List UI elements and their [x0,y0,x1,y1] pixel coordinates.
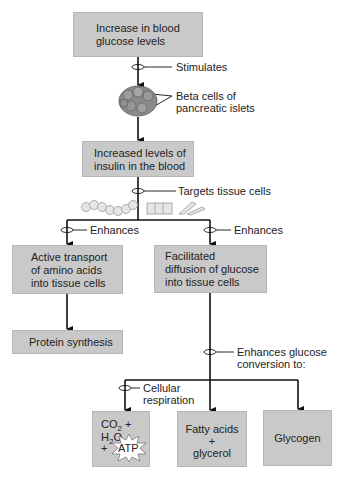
box-amino-transport: Active transport of amino acids into tis… [12,245,123,294]
label-beta-cells: pancreatic islets [176,102,255,114]
label-beta-cells: Beta cells of [176,90,236,102]
label-stimulates: Stimulates [176,61,227,73]
box-text: Glycogen [264,432,331,445]
label-enhances-left: Enhances [90,224,139,236]
box-text: diffusion of glucose [165,263,259,276]
box-co2-h2o-atp: CO2 + H2O + ATP [92,411,150,467]
label-enhances-right: Enhances [234,224,283,236]
beta-cells-icon [119,86,157,116]
tissue-cells-icon [82,201,206,216]
box-text: Increase in blood [96,22,180,35]
box-text: Active transport [31,251,107,264]
box-glycogen: Glycogen [263,410,332,466]
label-targets: Targets tissue cells [178,185,271,197]
label-conversion: Enhances glucose [237,346,327,358]
box-text: glycerol [178,447,246,460]
box-text: Protein synthesis [29,336,113,349]
box-text: of amino acids [31,264,102,277]
box-text: into tissue cells [165,276,240,289]
atp-label: ATP [118,442,139,455]
box-text: Increased levels of [94,147,186,160]
box-text: into tissue cells [31,277,106,290]
box-insulin-increase: Increased levels of insulin in the blood [82,141,194,177]
box-glucose-increase: Increase in blood glucose levels [73,12,203,57]
box-text: insulin in the blood [94,160,185,173]
label-respiration: Cellular [143,382,180,394]
label-conversion: conversion to: [237,358,305,370]
box-glucose-diffusion: Facilitated diffusion of glucose into ti… [154,245,267,293]
label-respiration: respiration [143,394,194,406]
box-protein-synthesis: Protein synthesis [12,330,123,354]
box-text: Facilitated [165,250,215,263]
box-text: glucose levels [96,35,165,48]
box-text: + [101,442,107,455]
box-fatty-acids-glycerol: Fatty acids + glycerol [177,411,247,467]
